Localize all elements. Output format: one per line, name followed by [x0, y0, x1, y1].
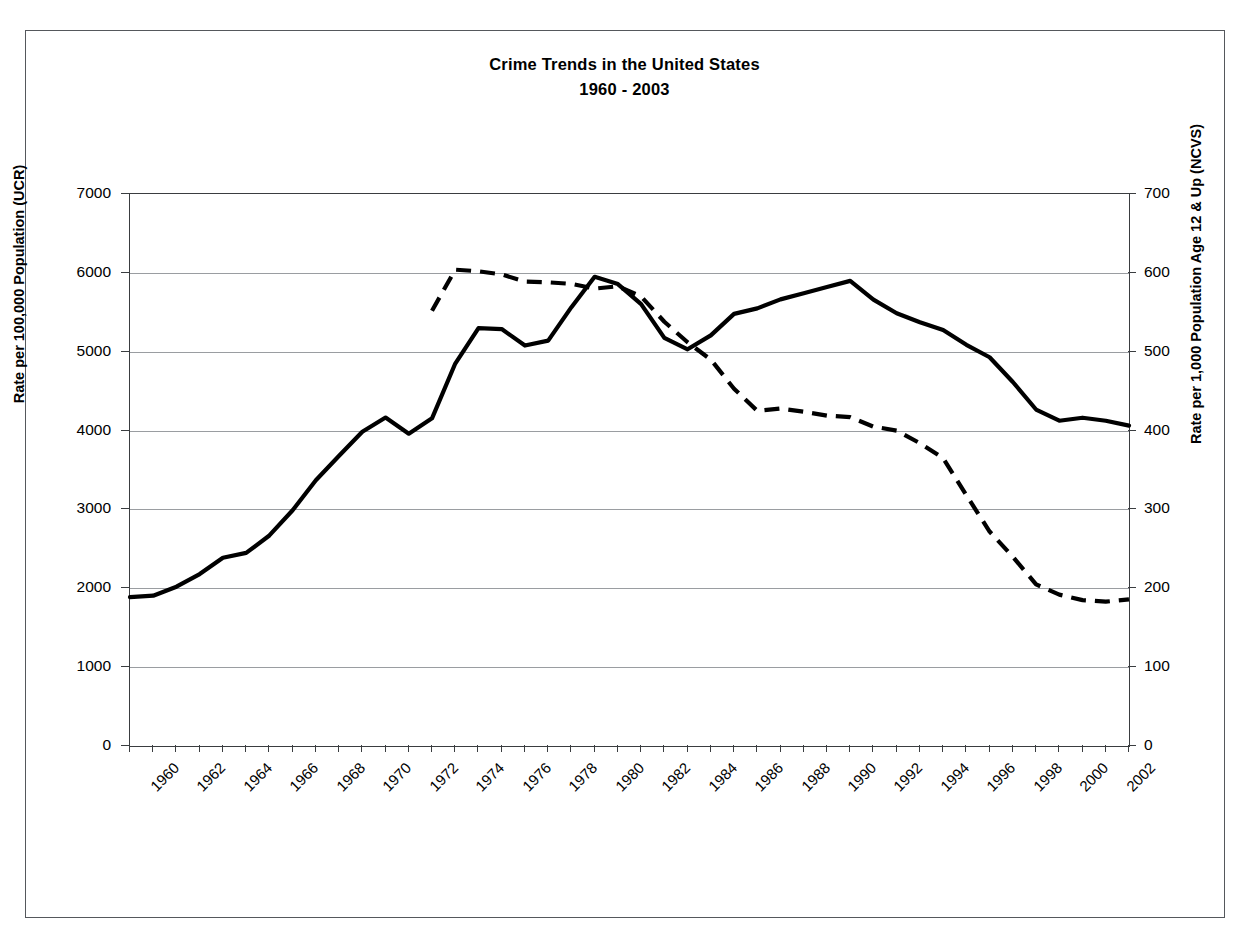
x-tick-mark	[1058, 745, 1059, 752]
plot-area	[129, 193, 1130, 747]
x-tick-mark	[849, 745, 850, 752]
x-tick-mark	[896, 745, 897, 752]
left-axis-tick-label: 3000	[41, 500, 111, 516]
x-tick-mark	[942, 745, 943, 752]
x-tick-mark	[361, 745, 362, 752]
x-tick-mark	[477, 745, 478, 752]
x-tick-mark	[129, 745, 130, 752]
left-axis-title: Rate per 100,000 Population (UCR)	[11, 4, 27, 564]
left-tick-mark	[121, 272, 129, 273]
ncvs-victimization-rate-line	[432, 270, 1129, 602]
left-axis-tick-label: 2000	[41, 579, 111, 595]
right-tick-mark	[1128, 508, 1136, 509]
x-tick-mark	[872, 745, 873, 752]
left-axis-tick-label: 6000	[41, 264, 111, 280]
x-tick-mark	[199, 745, 200, 752]
x-tick-mark	[292, 745, 293, 752]
left-tick-mark	[121, 666, 129, 667]
right-tick-mark	[1128, 272, 1136, 273]
right-axis-tick-label: 200	[1144, 579, 1204, 595]
right-tick-mark	[1128, 666, 1136, 667]
left-axis-tick-label: 4000	[41, 422, 111, 438]
ucr-crime-rate-line	[130, 277, 1129, 597]
right-axis-title: Rate per 1,000 Population Age 12 & Up (N…	[1188, 4, 1204, 564]
x-tick-mark	[594, 745, 595, 752]
right-axis-tick-label: 300	[1144, 500, 1204, 516]
right-axis-tick-label: 100	[1144, 658, 1204, 674]
x-tick-mark	[756, 745, 757, 752]
left-tick-mark	[121, 508, 129, 509]
left-tick-mark	[121, 193, 129, 194]
x-tick-mark	[408, 745, 409, 752]
x-tick-mark	[826, 745, 827, 752]
right-axis-tick-label: 400	[1144, 422, 1204, 438]
x-tick-mark	[338, 745, 339, 752]
right-axis-tick-label: 0	[1144, 737, 1204, 753]
right-tick-mark	[1128, 587, 1136, 588]
x-tick-mark	[663, 745, 664, 752]
chart-title-line1: Crime Trends in the United States	[489, 55, 760, 73]
left-tick-mark	[121, 745, 129, 746]
x-tick-mark	[1105, 745, 1106, 752]
x-tick-mark	[919, 745, 920, 752]
page-title: Crime Trends in the United States 1960 -…	[0, 52, 1249, 102]
left-axis-tick-label: 0	[41, 737, 111, 753]
x-tick-mark	[431, 745, 432, 752]
x-tick-mark	[385, 745, 386, 752]
x-tick-mark	[175, 745, 176, 752]
x-tick-mark	[570, 745, 571, 752]
left-axis-tick-label: 7000	[41, 185, 111, 201]
x-tick-mark	[710, 745, 711, 752]
left-axis-tick-label: 1000	[41, 658, 111, 674]
x-tick-mark	[733, 745, 734, 752]
chart-title-line2: 1960 - 2003	[0, 77, 1249, 102]
chart-figure: Crime Trends in the United States 1960 -…	[0, 0, 1249, 936]
right-axis-tick-label: 500	[1144, 343, 1204, 359]
left-axis-tick-label: 5000	[41, 343, 111, 359]
left-tick-mark	[121, 351, 129, 352]
x-tick-mark	[222, 745, 223, 752]
right-axis-tick-label: 600	[1144, 264, 1204, 280]
x-tick-mark	[1012, 745, 1013, 752]
x-tick-mark	[687, 745, 688, 752]
right-tick-mark	[1128, 193, 1136, 194]
x-tick-mark	[245, 745, 246, 752]
x-tick-mark	[454, 745, 455, 752]
x-tick-mark	[501, 745, 502, 752]
x-tick-mark	[989, 745, 990, 752]
x-tick-mark	[640, 745, 641, 752]
right-tick-mark	[1128, 351, 1136, 352]
x-tick-mark	[547, 745, 548, 752]
left-tick-mark	[121, 587, 129, 588]
left-tick-mark	[121, 430, 129, 431]
x-tick-mark	[268, 745, 269, 752]
x-tick-mark	[617, 745, 618, 752]
x-tick-mark	[1035, 745, 1036, 752]
x-tick-mark	[965, 745, 966, 752]
series-canvas	[130, 194, 1129, 746]
x-tick-mark	[315, 745, 316, 752]
x-tick-mark	[1082, 745, 1083, 752]
right-axis-tick-label: 700	[1144, 185, 1204, 201]
x-tick-mark	[780, 745, 781, 752]
x-tick-mark	[152, 745, 153, 752]
right-tick-mark	[1128, 430, 1136, 431]
x-tick-mark	[1128, 745, 1129, 752]
x-tick-mark	[803, 745, 804, 752]
x-tick-mark	[524, 745, 525, 752]
right-tick-mark	[1128, 745, 1136, 746]
